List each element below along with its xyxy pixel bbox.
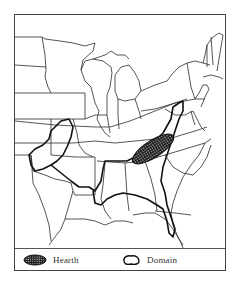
legend-label-domain: Domain xyxy=(147,255,177,265)
legend-label-hearth: Hearth xyxy=(53,255,79,265)
hearth-symbol-icon xyxy=(23,254,47,266)
legend-item-domain: Domain xyxy=(121,253,177,267)
legend: Hearth Domain xyxy=(15,249,225,271)
domain-symbol-icon xyxy=(121,254,141,266)
state-boundaries xyxy=(15,33,223,248)
eastern-us-map xyxy=(15,15,225,248)
domain-region xyxy=(29,101,183,237)
legend-item-hearth: Hearth xyxy=(23,253,79,267)
map-figure: Hearth Domain xyxy=(14,14,226,271)
